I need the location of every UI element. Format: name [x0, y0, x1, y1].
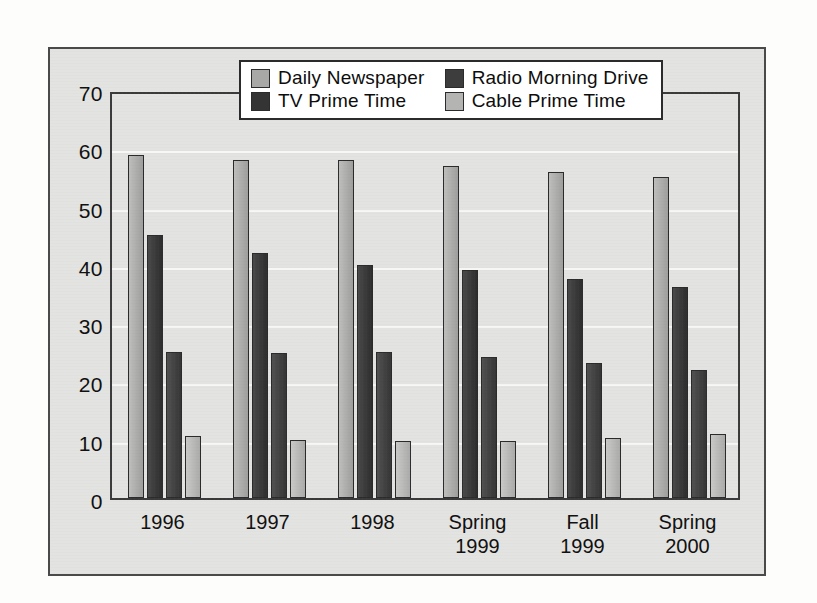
- bar: [500, 441, 516, 498]
- chart-page: 010203040506070 199619971998Spring 1999F…: [0, 0, 817, 603]
- bar: [653, 177, 669, 498]
- bar: [271, 353, 287, 498]
- bar: [395, 441, 411, 498]
- bar-series-container: [112, 94, 738, 498]
- y-axis-tick-label: 10: [79, 432, 103, 456]
- bar: [443, 166, 459, 498]
- legend-label: Cable Prime Time: [472, 90, 626, 112]
- bar: [672, 287, 688, 498]
- y-axis-tick-label: 60: [79, 140, 103, 164]
- x-axis-tick-label: 1998: [320, 510, 425, 534]
- legend-item: TV Prime Time: [251, 90, 425, 112]
- x-axis-tick-label: 1996: [110, 510, 215, 534]
- bar: [233, 160, 249, 498]
- chart-legend: Daily NewspaperRadio Morning DriveTV Pri…: [239, 60, 663, 120]
- legend-item: Daily Newspaper: [251, 67, 425, 89]
- bar: [691, 370, 707, 498]
- y-axis-tick-label: 40: [79, 257, 103, 281]
- y-axis-tick-label: 30: [79, 315, 103, 339]
- bar: [290, 440, 306, 498]
- bar: [586, 363, 602, 498]
- legend-label: Radio Morning Drive: [472, 67, 649, 89]
- bar: [710, 434, 726, 498]
- legend-item: Radio Morning Drive: [445, 67, 649, 89]
- bar: [185, 436, 201, 498]
- bar: [548, 172, 564, 498]
- bar: [147, 235, 163, 498]
- y-axis-tick-label: 70: [79, 82, 103, 106]
- y-axis-tick-label: 20: [79, 373, 103, 397]
- bar: [605, 438, 621, 498]
- x-axis-tick-label: Spring 2000: [635, 510, 740, 559]
- bar: [357, 265, 373, 498]
- legend-item: Cable Prime Time: [445, 90, 649, 112]
- x-axis-tick-label: Fall 1999: [530, 510, 635, 559]
- y-axis-tick-label: 0: [91, 490, 103, 514]
- y-axis-tick-label: 50: [79, 199, 103, 223]
- bar: [338, 160, 354, 498]
- bar: [567, 279, 583, 498]
- x-axis-tick-label: 1997: [215, 510, 320, 534]
- legend-label: Daily Newspaper: [278, 67, 425, 89]
- legend-swatch-icon: [445, 92, 464, 111]
- bar: [462, 270, 478, 498]
- legend-label: TV Prime Time: [278, 90, 406, 112]
- x-axis-tick-label: Spring 1999: [425, 510, 530, 559]
- bar: [128, 155, 144, 498]
- bar: [252, 253, 268, 498]
- legend-swatch-icon: [445, 69, 464, 88]
- plot-area: 010203040506070: [110, 92, 740, 500]
- bar: [166, 352, 182, 498]
- legend-swatch-icon: [251, 92, 270, 111]
- bar: [376, 352, 392, 498]
- bar: [481, 357, 497, 498]
- legend-swatch-icon: [251, 69, 270, 88]
- chart-frame: 010203040506070 199619971998Spring 1999F…: [48, 47, 766, 576]
